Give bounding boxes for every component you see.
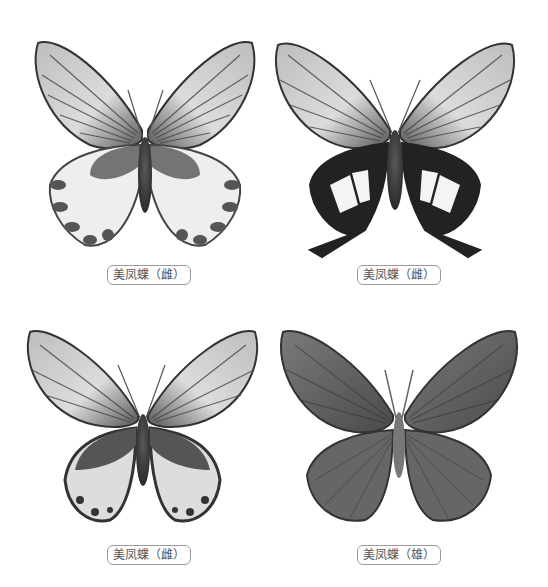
- specimen-label-4: 美凤蝶（雄）: [357, 545, 441, 565]
- butterfly-female-2: [270, 35, 520, 265]
- specimen-label-2: 美凤蝶（雌）: [357, 265, 441, 285]
- butterfly-female-3: [20, 320, 270, 530]
- specimen-label-1: 美凤蝶（雌）: [107, 265, 191, 285]
- butterfly-female-1: [30, 35, 260, 260]
- butterfly-male: [275, 320, 525, 535]
- specimen-label-3: 美凤蝶（雌）: [107, 545, 191, 565]
